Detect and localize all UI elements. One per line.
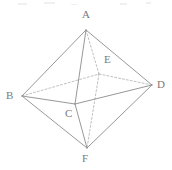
scan-artifact xyxy=(44,2,55,4)
solid-edge-group xyxy=(22,30,152,148)
vertex-label-c: C xyxy=(65,108,73,119)
octahedron-svg xyxy=(0,0,172,170)
edge-EF xyxy=(87,74,99,148)
edge-ED xyxy=(99,74,152,85)
scan-artifact xyxy=(18,3,27,5)
scan-artifact xyxy=(71,4,77,5)
vertex-label-b: B xyxy=(6,90,14,101)
edge-AD xyxy=(86,30,152,85)
vertex-label-d: D xyxy=(157,79,165,90)
edge-DF xyxy=(87,85,152,148)
vertex-label-e: E xyxy=(104,54,111,65)
vertex-label-a: A xyxy=(82,9,90,20)
edge-CD xyxy=(75,85,152,104)
edge-AE xyxy=(86,30,99,74)
edge-BE xyxy=(22,74,99,96)
edge-AB xyxy=(22,30,86,96)
scan-artifact xyxy=(120,3,127,5)
scan-artifact xyxy=(146,2,151,4)
vertex-label-f: F xyxy=(82,153,88,164)
edge-AC xyxy=(75,30,86,104)
edge-CF xyxy=(75,104,87,148)
geometry-figure: ABCDEF xyxy=(0,0,172,170)
hidden-edge-group xyxy=(22,30,152,148)
